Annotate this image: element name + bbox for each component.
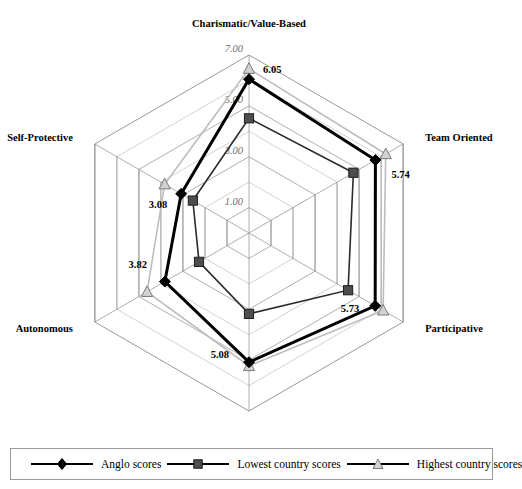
data-point-square (188, 196, 197, 205)
ring-label: 7.00 (225, 43, 244, 54)
axis-label-4: Autonomous (16, 323, 73, 334)
data-point-triangle (141, 286, 152, 297)
data-point-triangle (380, 148, 391, 159)
series-line (193, 118, 354, 314)
legend-row: Anglo scores Lowest country scores Highe… (11, 449, 492, 479)
legend-label-highest: Highest country scores (417, 458, 522, 470)
axis-spoke (95, 144, 249, 233)
legend-label-lowest: Lowest country scores (237, 458, 340, 470)
anglo-value-label: 3.82 (129, 259, 147, 270)
legend-label-anglo: Anglo scores (101, 458, 161, 470)
axis-label-2: Participative (425, 323, 483, 334)
legend-item-lowest: Lowest country scores (161, 457, 340, 471)
anglo-value-label: 3.08 (149, 199, 167, 210)
anglo-value-label: 5.73 (341, 303, 359, 314)
data-point-diamond (370, 300, 381, 311)
diamond-marker-icon (31, 457, 93, 471)
data-point-square (194, 257, 203, 266)
legend-item-anglo: Anglo scores (17, 457, 161, 471)
data-point-square (244, 114, 253, 123)
square-marker-icon (167, 457, 229, 471)
series-square (188, 114, 358, 319)
anglo-value-label: 5.08 (211, 349, 229, 360)
axis-label-3: Humane Oriented (208, 438, 290, 440)
axis-label-5: Self-Protective (7, 132, 73, 143)
axis-label-0: Charismatic/Value-Based (192, 18, 306, 29)
radar-chart-svg: 1.003.005.007.006.055.745.735.083.823.08… (0, 0, 505, 440)
ring-label: 1.00 (225, 196, 244, 207)
anglo-value-label: 5.74 (391, 169, 410, 180)
anglo-value-label: 6.05 (263, 64, 281, 75)
radar-chart: 1.003.005.007.006.055.745.735.083.823.08… (0, 0, 505, 440)
data-point-square (349, 168, 358, 177)
axis-spoke (249, 144, 403, 233)
data-point-square (244, 309, 253, 318)
legend-item-highest: Highest country scores (341, 457, 522, 471)
triangle-marker-icon (347, 457, 409, 471)
data-point-triangle (243, 63, 254, 74)
axis-label-1: Team Oriented (425, 132, 493, 143)
chart-legend: Anglo scores Lowest country scores Highe… (10, 448, 493, 480)
data-point-square (343, 286, 352, 295)
